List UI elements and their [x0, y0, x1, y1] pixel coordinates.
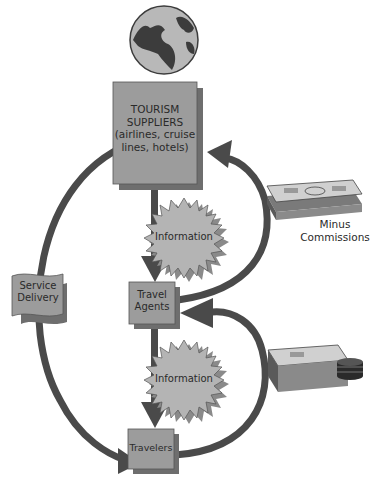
travelers-label: Travelers — [126, 442, 176, 453]
minus-line: Minus — [290, 218, 380, 231]
suppliers-line3: (airlines, cruise — [113, 128, 197, 141]
information-label-bottom: Information — [146, 373, 222, 385]
money-stack-icon — [267, 180, 362, 220]
service-line2: Delivery — [12, 292, 64, 304]
information-label-top: Information — [146, 231, 222, 243]
money-coins-icon — [268, 345, 363, 392]
globe-icon — [130, 6, 198, 74]
suppliers-line1: TOURISM — [113, 103, 197, 116]
agents-line2: Agents — [129, 301, 175, 313]
suppliers-line2: SUPPLIERS — [113, 116, 197, 129]
agents-line1: Travel — [129, 289, 175, 301]
travel-agents-label: Travel Agents — [129, 289, 175, 313]
suppliers-line4: lines, hotels) — [113, 141, 197, 154]
commissions-line: Commissions — [290, 231, 380, 244]
service-delivery-label: Service Delivery — [12, 280, 64, 304]
minus-commissions-label: Minus Commissions — [290, 218, 380, 243]
suppliers-label: TOURISM SUPPLIERS (airlines, cruise line… — [113, 103, 197, 153]
service-line1: Service — [12, 280, 64, 292]
